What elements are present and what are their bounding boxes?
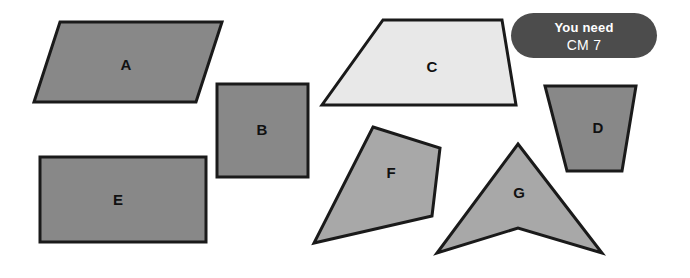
shape-group-d[interactable]: D <box>545 86 636 171</box>
shapes-worksheet: A B C D E F G You need CM 7 <box>0 0 690 278</box>
you-need-badge: You need CM 7 <box>511 13 657 58</box>
shape-b-label: B <box>257 121 268 138</box>
shape-c-polygon[interactable] <box>322 20 516 105</box>
badge-heading: You need <box>554 20 613 36</box>
shape-group-e[interactable]: E <box>40 157 206 242</box>
shape-d-label: D <box>593 119 604 136</box>
shape-f-label: F <box>386 164 395 181</box>
badge-resource-code: CM 7 <box>567 36 602 54</box>
shape-d-polygon[interactable] <box>545 86 636 171</box>
shape-e-label: E <box>113 191 123 208</box>
shape-f-polygon[interactable] <box>314 127 440 243</box>
shape-c-label: C <box>427 58 438 75</box>
shape-g-label: G <box>513 184 525 201</box>
shape-a-label: A <box>121 56 132 73</box>
shape-group-f[interactable]: F <box>314 127 440 243</box>
shape-group-a[interactable]: A <box>34 22 222 102</box>
shape-group-c[interactable]: C <box>322 20 516 105</box>
shape-group-b[interactable]: B <box>217 84 308 177</box>
